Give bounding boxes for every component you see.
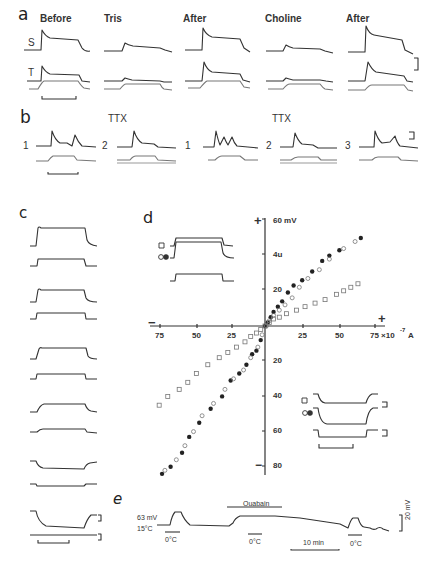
panel-a-t-traces: [27, 58, 418, 91]
open-circle-point: [212, 401, 216, 405]
filled-circle-point: [259, 338, 263, 342]
open-circle-point: [163, 468, 167, 472]
filled-circle-point: [300, 278, 304, 282]
panel-d-scatter: [157, 236, 363, 476]
open-circle-point: [306, 276, 310, 280]
open-circle-point: [260, 333, 264, 337]
filled-circle-point: [244, 363, 248, 367]
open-square-point: [303, 305, 307, 309]
open-square-point: [217, 356, 221, 360]
panel-a-time-scale: [42, 96, 76, 99]
filled-circle-point: [197, 421, 201, 425]
open-square-point: [243, 340, 247, 344]
filled-circle-point: [286, 290, 290, 294]
open-circle-point: [342, 247, 346, 251]
filled-circle-point: [320, 259, 324, 263]
filled-circle-point: [180, 451, 184, 455]
filled-circle-point: [359, 236, 363, 240]
open-square-point: [254, 331, 258, 335]
open-circle-point: [290, 296, 294, 300]
open-square-point: [186, 380, 190, 384]
open-circle-point: [317, 268, 321, 272]
open-circle-point: [249, 356, 253, 360]
open-square-point: [277, 315, 281, 319]
open-circle-point: [283, 303, 287, 307]
open-circle-point: [183, 444, 187, 448]
filled-circle-point: [187, 435, 191, 439]
open-square-point: [294, 308, 298, 312]
open-square-point: [166, 394, 170, 398]
panel-a-s-traces: [24, 26, 413, 54]
figure-drawing: [0, 0, 434, 567]
open-square-point: [157, 403, 161, 407]
open-circle-point: [192, 430, 196, 434]
open-square-point: [323, 298, 327, 302]
open-square-point: [356, 282, 360, 286]
filled-circle-point: [208, 407, 212, 411]
open-circle-point: [200, 414, 204, 418]
open-square-point: [313, 301, 317, 305]
open-square-point: [349, 285, 353, 289]
filled-circle-point: [237, 371, 241, 375]
filled-circle-point: [310, 269, 314, 273]
open-circle-point: [277, 308, 281, 312]
open-square-point: [284, 312, 288, 316]
open-square-point: [177, 387, 181, 391]
open-circle-point: [297, 285, 301, 289]
open-square-point: [206, 363, 210, 367]
open-circle-point: [353, 240, 357, 244]
filled-circle-point: [220, 394, 224, 398]
open-circle-point: [223, 387, 227, 391]
open-circle-point: [232, 377, 236, 381]
open-square-point: [234, 345, 238, 349]
panel-d-inset-bottom: [302, 394, 387, 448]
panel-d-inset-top: [159, 238, 234, 281]
open-square-point: [259, 328, 263, 332]
open-circle-point: [174, 458, 178, 462]
filled-circle-point: [337, 248, 341, 252]
open-square-point: [342, 289, 346, 293]
panel-e-trace: [157, 507, 402, 550]
open-circle-point: [256, 345, 260, 349]
open-square-point: [335, 292, 339, 296]
filled-circle-point: [168, 465, 172, 469]
panel-b-traces: [36, 131, 418, 174]
filled-circle-point: [291, 283, 295, 287]
open-square-point: [194, 372, 198, 376]
open-square-point: [226, 350, 230, 354]
open-circle-point: [242, 368, 246, 372]
open-square-point: [249, 335, 253, 339]
panel-c-traces: [30, 227, 101, 543]
